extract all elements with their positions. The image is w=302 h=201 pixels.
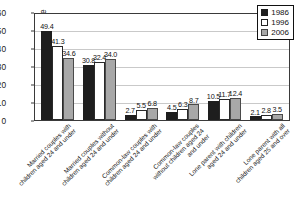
bar-value-label: 34.6	[62, 50, 75, 57]
plot-area: 49.441.334.630.832.434.02.75.56.84.56.38…	[34, 13, 290, 121]
bar-value-label: 2.1	[250, 109, 259, 116]
y-tick-10: 10	[0, 98, 6, 108]
legend-item: 2006	[261, 28, 289, 37]
bar-1986	[208, 101, 219, 120]
bar-value-label: 2.8	[261, 107, 270, 114]
y-tick-30: 30	[0, 62, 6, 72]
bar-group: 49.441.334.6	[41, 14, 74, 120]
bar-group: 10.511.712.4	[208, 14, 241, 120]
bar-column: 6.8	[147, 14, 158, 120]
bar-value-label: 34.0	[104, 51, 117, 58]
bar-column: 4.5	[166, 14, 177, 120]
bar-1996	[94, 62, 105, 120]
bar-1996	[177, 109, 188, 120]
bar-column: 2.7	[125, 14, 136, 120]
bar-chart: Percentage 0102030405060 49.441.334.630.…	[0, 0, 302, 201]
legend-label-1986: 1986	[271, 8, 289, 17]
legend-swatch-1996	[261, 19, 268, 26]
bar-value-label: 6.3	[178, 101, 187, 108]
bar-column: 5.5	[136, 14, 147, 120]
bar-column: 34.6	[63, 14, 74, 120]
y-tick-60: 60	[0, 8, 6, 18]
bar-2006	[147, 108, 158, 120]
bar-column: 8.7	[188, 14, 199, 120]
bar-value-label: 12.4	[229, 90, 242, 97]
y-tick-20: 20	[0, 80, 6, 90]
bar-1996	[136, 110, 147, 120]
bar-column: 12.4	[230, 14, 241, 120]
legend-label-2006: 2006	[271, 28, 289, 37]
y-tick-40: 40	[0, 44, 6, 54]
legend-swatch-2006	[261, 29, 268, 36]
legend-label-1996: 1996	[271, 18, 289, 27]
bar-column: 32.4	[94, 14, 105, 120]
bar-1986	[83, 65, 94, 120]
y-tick-0: 0	[0, 116, 6, 126]
bar-2006	[63, 58, 74, 120]
legend-swatch-1986	[261, 9, 268, 16]
bar-group: 2.75.56.8	[125, 14, 158, 120]
bar-1986	[250, 116, 261, 120]
bar-group: 30.832.434.0	[83, 14, 116, 120]
bar-1996	[261, 115, 272, 120]
bar-column: 30.8	[83, 14, 94, 120]
bar-value-label: 5.5	[136, 102, 145, 109]
bar-column: 41.3	[52, 14, 63, 120]
bar-column: 6.3	[177, 14, 188, 120]
bar-column: 10.5	[208, 14, 219, 120]
bar-2006	[105, 59, 116, 120]
bar-2006	[188, 104, 199, 120]
bar-column: 49.4	[41, 14, 52, 120]
bar-group: 4.56.38.7	[166, 14, 199, 120]
x-axis-category-labels: Married couples with children aged 24 an…	[34, 122, 290, 201]
bar-value-label: 4.5	[167, 104, 176, 111]
bar-value-label: 2.7	[125, 107, 134, 114]
legend-item: 1986	[261, 8, 289, 17]
bar-groups: 49.441.334.630.832.434.02.75.56.84.56.38…	[35, 14, 289, 120]
bar-value-label: 6.8	[147, 100, 156, 107]
bar-value-label: 3.5	[272, 106, 281, 113]
bar-column: 34.0	[105, 14, 116, 120]
legend-item: 1996	[261, 18, 289, 27]
bar-2006	[230, 98, 241, 120]
bar-2006	[272, 114, 283, 120]
y-tick-50: 50	[0, 26, 6, 36]
legend: 1986 1996 2006	[257, 5, 294, 40]
bar-1986	[166, 112, 177, 120]
bar-1996	[219, 99, 230, 120]
bar-1986	[125, 115, 136, 120]
bar-value-label: 8.7	[189, 97, 198, 104]
bar-column: 11.7	[219, 14, 230, 120]
